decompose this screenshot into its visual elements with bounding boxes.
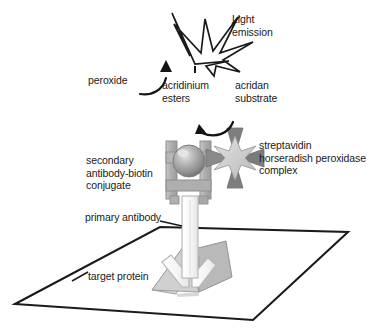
label-target-protein: target protein [88, 270, 148, 283]
label-acridinium-esters: acridinium esters [162, 79, 209, 104]
label-secondary-antibody: secondary antibody-biotin conjugate [86, 154, 153, 192]
label-light-emission: Light emission [232, 13, 273, 38]
label-primary-antibody: primary antibody [85, 211, 161, 224]
label-peroxide: peroxide [88, 74, 127, 87]
streptavidin-hrp-complex [206, 128, 264, 188]
immunoassay-diagram: Light emission peroxide acridinium ester… [0, 0, 389, 331]
biotin-sphere [173, 145, 205, 177]
label-streptavidin-hrp-complex: streptavidin horseradish peroxidase comp… [259, 139, 366, 177]
label-acridan-substrate: acridan substrate [235, 79, 277, 104]
primary-antibody-leader [160, 221, 182, 226]
